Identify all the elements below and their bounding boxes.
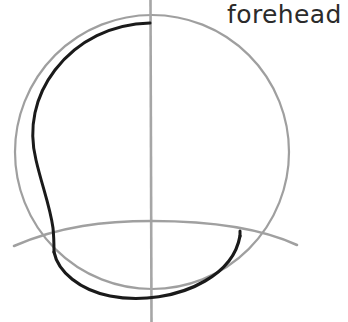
forehead-label: forehead bbox=[227, 1, 342, 29]
head-construction-diagram bbox=[0, 0, 348, 322]
forehead-outline bbox=[33, 23, 150, 252]
vertical-centerline-guide bbox=[151, 0, 152, 322]
sketch-canvas: forehead bbox=[0, 0, 348, 322]
